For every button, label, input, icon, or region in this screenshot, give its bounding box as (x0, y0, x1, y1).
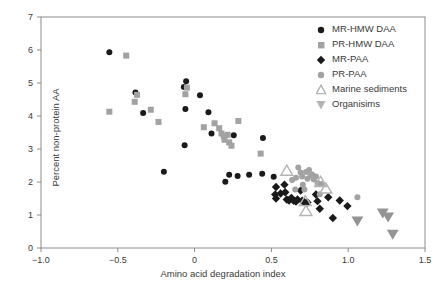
x-tick-label: 0 (192, 255, 197, 265)
series-pr-hmw-daa (106, 53, 263, 157)
data-point (259, 171, 265, 177)
y-tick-label: 3 (28, 144, 33, 154)
data-point (336, 196, 344, 204)
x-axis-title: Amino acid degradation index (0, 268, 446, 279)
data-point (208, 130, 214, 136)
y-tick-label: 1 (28, 210, 33, 220)
data-point (184, 85, 190, 91)
data-point (382, 213, 394, 223)
x-tick-label: −0.5 (109, 255, 127, 265)
x-tick-label: 1.0 (342, 255, 355, 265)
series-organisims (351, 209, 398, 240)
data-point (271, 174, 277, 180)
data-point (123, 53, 129, 59)
legend-item-label: MR-PAA (332, 53, 368, 64)
data-point (343, 202, 351, 210)
legend-item-label: PR-PAA (332, 68, 367, 79)
data-point (258, 151, 264, 157)
data-point (316, 205, 324, 213)
data-point (182, 142, 188, 148)
data-point (313, 173, 319, 179)
y-tick-label: 5 (28, 78, 33, 88)
x-tick-label: 0.5 (265, 255, 278, 265)
data-point (231, 132, 237, 138)
data-point (156, 119, 162, 125)
y-tick-label: 7 (28, 12, 33, 22)
y-axis-title-text: Percent non-protein AA (50, 88, 61, 186)
data-point (301, 187, 307, 193)
legend-item: MR-PAA (316, 52, 424, 67)
data-point (182, 91, 188, 97)
data-point (161, 169, 167, 175)
data-point (272, 183, 280, 191)
data-point (140, 110, 146, 116)
data-point (235, 173, 241, 179)
legend-item: MR-HMW DAA (316, 22, 424, 37)
y-tick-label: 6 (28, 45, 33, 55)
y-tick-label: 4 (28, 111, 33, 121)
data-point (201, 124, 207, 130)
legend-item: PR-HMW DAA (316, 37, 424, 52)
legend-item: Marine sediments (316, 82, 424, 97)
legend-item: PR-PAA (316, 67, 424, 82)
legend: MR-HMW DAA PR-HMW DAA MR-PAA PR-PAA Mari… (316, 22, 424, 112)
legend-item-label: MR-HMW DAA (332, 23, 396, 34)
data-point (246, 172, 252, 178)
diamond-black-icon (316, 52, 329, 67)
legend-item-label: Organisims (332, 98, 380, 109)
triangle-down-gray-icon (316, 97, 329, 112)
data-point (106, 109, 112, 115)
data-point (293, 175, 299, 181)
triangle-up-gray-icon (316, 82, 329, 97)
series-mr-hmw-daa (106, 49, 276, 184)
data-point (226, 172, 232, 178)
legend-item: Organisims (316, 97, 424, 112)
data-point (106, 49, 112, 55)
data-point (329, 214, 337, 222)
circle-gray-icon (316, 67, 329, 82)
data-point (313, 197, 321, 205)
y-axis-title: Percent non-protein AA (6, 132, 104, 143)
data-point (228, 143, 234, 149)
data-point (292, 187, 298, 193)
square-gray-icon (316, 37, 329, 52)
data-point (197, 92, 203, 98)
data-point (225, 132, 231, 138)
data-point (280, 180, 288, 188)
data-point (387, 230, 399, 240)
legend-item-label: PR-HMW DAA (332, 38, 394, 49)
data-point (260, 135, 266, 141)
data-point (354, 194, 360, 200)
data-point (222, 179, 228, 185)
data-point (235, 118, 241, 124)
scatter-plot-figure: −1.0−0.500.51.01.501234567 Percent non-p… (0, 0, 446, 290)
x-tick-label: 1.5 (419, 255, 432, 265)
data-point (216, 125, 222, 131)
data-point (134, 92, 140, 98)
y-tick-label: 2 (28, 177, 33, 187)
data-point (300, 205, 312, 215)
circle-black-icon (316, 22, 329, 37)
data-point (182, 106, 188, 112)
y-tick-label: 0 (28, 243, 33, 253)
x-tick-label: −1.0 (32, 255, 50, 265)
data-point (281, 165, 293, 175)
data-point (324, 193, 332, 201)
legend-item-label: Marine sediments (332, 83, 407, 94)
x-axis-title-text: Amino acid degradation index (160, 268, 285, 279)
data-point (132, 99, 138, 105)
data-point (183, 78, 189, 84)
data-point (148, 107, 154, 113)
data-point (205, 109, 211, 115)
data-point (351, 216, 363, 226)
